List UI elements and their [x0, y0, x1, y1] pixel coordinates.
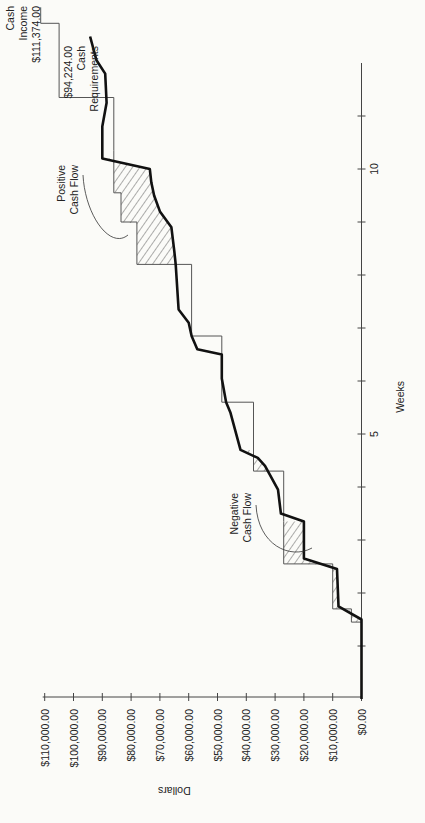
cash-flow-hatch-areas: [102, 158, 361, 622]
dollar-tick-label: $60,000.00: [183, 709, 195, 762]
labels: $0.00$10,000.00$20,000.00$30,000.00$40,0…: [4, 6, 406, 797]
axes: [43, 63, 366, 701]
positive-cash-flow-label: Positive: [55, 165, 67, 202]
cash-income-label: Income: [17, 6, 29, 41]
dollar-tick-label: $20,000.00: [298, 709, 310, 762]
negative-cash-flow-label: Negative: [228, 493, 240, 535]
negative-cash-flow-label: Cash Flow: [241, 493, 253, 543]
positive-cash-flow-label: Cash Flow: [68, 165, 80, 215]
week-axis-title: Weeks: [394, 381, 406, 413]
dollar-tick-label: $110,000.00: [39, 709, 51, 767]
dollar-tick-label: $100,000.00: [68, 709, 80, 768]
dollar-axis-title: Dollars: [158, 785, 191, 797]
dollar-tick-label: $0.00: [356, 709, 368, 735]
cash-requirements-label: Cash: [75, 46, 87, 71]
cash-income-label: Cash: [4, 6, 16, 31]
cash-requirements-label: $94,224.00: [62, 46, 74, 99]
cash-flow-chart: $0.00$10,000.00$20,000.00$30,000.00$40,0…: [0, 0, 425, 823]
dollar-tick-label: $90,000.00: [96, 709, 108, 762]
week-tick-label: 10: [368, 163, 380, 175]
cash-requirements-line: [90, 37, 361, 700]
dollar-tick-label: $70,000.00: [154, 709, 166, 762]
cash-requirements-label: Requirements: [88, 46, 100, 111]
dollar-tick-label: $40,000.00: [240, 709, 252, 762]
dollar-tick-label: $30,000.00: [269, 709, 281, 762]
negative-cash-flow-area: [284, 522, 362, 623]
dollar-tick-label: $10,000.00: [327, 709, 339, 762]
dollar-tick-label: $50,000.00: [212, 709, 224, 762]
cash-income-label: $111,374.00: [30, 6, 42, 63]
dollar-tick-label: $80,000.00: [125, 709, 137, 762]
week-tick-label: 5: [368, 431, 380, 437]
